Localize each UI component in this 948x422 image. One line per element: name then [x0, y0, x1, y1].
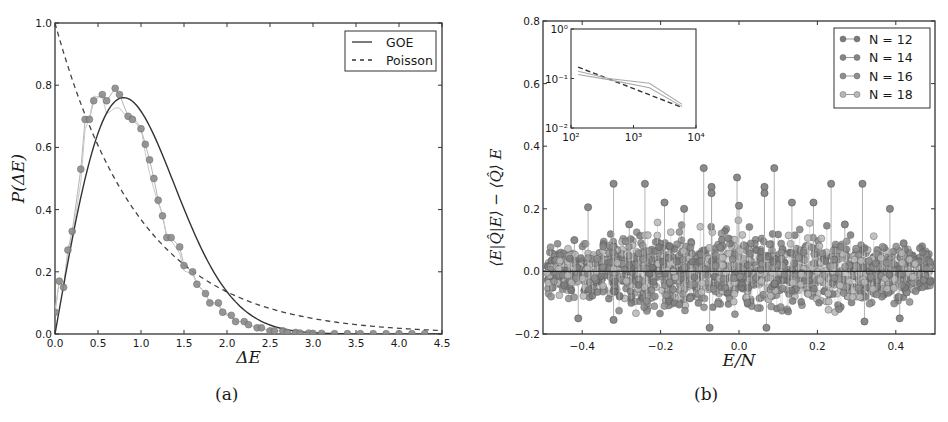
marker	[679, 256, 686, 263]
data-marker	[215, 300, 222, 307]
marker-icon	[854, 36, 860, 42]
data-marker	[86, 116, 93, 123]
x-axis-label: ΔE	[235, 347, 261, 367]
x-tick-label: 2.0	[219, 337, 236, 349]
marker	[870, 233, 877, 240]
marker	[768, 303, 775, 310]
data-marker	[142, 141, 149, 148]
marker	[811, 285, 818, 292]
marker	[747, 250, 754, 257]
marker	[787, 240, 794, 247]
marker	[806, 220, 813, 227]
data-marker	[129, 116, 136, 123]
marker	[735, 217, 742, 224]
marker	[564, 272, 571, 279]
marker	[657, 310, 664, 317]
legend-label: N = 18	[869, 87, 913, 102]
marker	[622, 238, 629, 245]
marker	[760, 291, 767, 298]
marker-icon	[840, 55, 846, 61]
outlier-marker	[896, 315, 903, 322]
marker	[667, 229, 674, 236]
marker	[612, 278, 619, 285]
marker	[557, 257, 564, 264]
data-marker	[77, 166, 84, 173]
data-marker	[245, 321, 252, 328]
marker	[785, 308, 792, 315]
inset-x-tick-label: 10⁴	[687, 131, 705, 143]
marker	[698, 280, 705, 287]
data-marker	[228, 312, 235, 319]
marker	[605, 295, 612, 302]
marker	[851, 256, 858, 263]
outlier-marker	[735, 202, 742, 209]
outlier-marker	[661, 199, 668, 206]
marker	[736, 273, 743, 280]
data-marker	[176, 244, 183, 251]
x-tick-label: 1.5	[176, 337, 193, 349]
marker	[691, 274, 698, 281]
marker	[795, 254, 802, 261]
marker	[654, 219, 661, 226]
marker	[614, 259, 621, 266]
marker	[867, 274, 874, 281]
marker	[827, 263, 834, 270]
marker	[561, 282, 568, 289]
outlier-marker	[761, 190, 768, 197]
marker	[722, 284, 729, 291]
data-marker	[232, 318, 239, 325]
marker	[779, 285, 786, 292]
data-marker	[271, 327, 278, 334]
marker	[554, 240, 561, 247]
marker	[805, 290, 812, 297]
outlier-marker	[681, 205, 688, 212]
outlier-marker	[641, 180, 648, 187]
y-tick-label: 0.4	[523, 140, 540, 152]
marker	[659, 258, 666, 265]
marker	[745, 284, 752, 291]
marker	[791, 232, 798, 239]
marker	[788, 249, 795, 256]
data-marker	[56, 278, 63, 285]
marker	[655, 244, 662, 251]
legend-label: N = 14	[869, 50, 913, 65]
inset-area	[571, 29, 696, 128]
marker	[700, 304, 707, 311]
outlier-marker	[575, 315, 582, 322]
marker	[757, 267, 764, 274]
marker	[837, 243, 844, 250]
marker	[641, 304, 648, 311]
x-tick-label: 4.0	[391, 337, 408, 349]
marker	[754, 305, 761, 312]
y-tick-label: 0.6	[523, 78, 540, 90]
marker	[840, 290, 847, 297]
marker	[697, 251, 704, 258]
data-marker	[103, 97, 110, 104]
marker-icon	[840, 92, 846, 98]
marker	[766, 241, 773, 248]
marker	[580, 292, 587, 299]
x-tick-label: 0.5	[90, 337, 107, 349]
marker	[825, 290, 832, 297]
marker	[757, 254, 764, 261]
data-marker	[310, 330, 317, 337]
marker	[650, 278, 657, 285]
y-tick-label: −0.2	[515, 328, 541, 340]
marker	[819, 250, 826, 257]
marker	[594, 255, 601, 262]
marker	[591, 275, 598, 282]
caption-b: (b)	[694, 384, 718, 404]
outlier-marker	[788, 199, 795, 206]
marker	[891, 300, 898, 307]
outlier-marker	[700, 165, 707, 172]
marker	[566, 255, 573, 262]
legend-label: Poisson	[386, 53, 433, 68]
outlier-marker	[708, 190, 715, 197]
marker	[548, 293, 555, 300]
marker	[866, 300, 873, 307]
outlier-marker	[584, 204, 591, 211]
marker	[781, 271, 788, 278]
marker	[681, 307, 688, 314]
marker	[825, 298, 832, 305]
marker	[724, 235, 731, 242]
